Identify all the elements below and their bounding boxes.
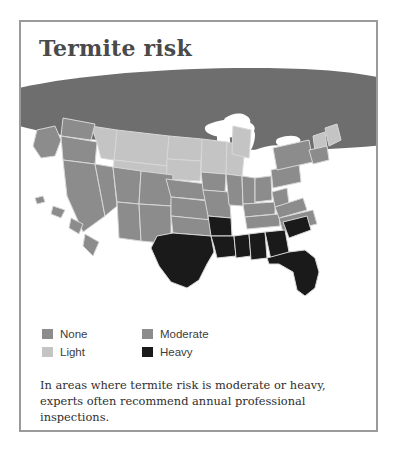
state-north-dakota [167, 136, 202, 161]
state-alaska-inset [33, 126, 61, 158]
page-title: Termite risk [39, 35, 192, 61]
state-michigan [232, 126, 251, 158]
legend-label-light: Light [60, 346, 85, 358]
legend-label-heavy: Heavy [160, 346, 193, 358]
legend-label-moderate: Moderate [160, 328, 209, 340]
state-mississippi [234, 234, 251, 258]
state-missouri [203, 190, 231, 218]
state-indiana [242, 176, 255, 204]
legend-row: None Moderate [42, 325, 262, 343]
legend-swatch-moderate [142, 329, 153, 339]
state-arkansas [208, 216, 232, 236]
map-container [21, 66, 376, 334]
state-ohio [255, 176, 272, 202]
state-hawaii-inset-2 [51, 206, 65, 218]
state-hawaii-inset-4 [83, 234, 99, 256]
us-termite-risk-map-svg [21, 66, 376, 334]
legend-item-light[interactable]: Light [42, 346, 142, 358]
state-louisiana [211, 236, 236, 258]
legend-swatch-none [42, 329, 53, 339]
state-hawaii-inset [35, 196, 45, 204]
state-oregon [61, 136, 97, 164]
state-minnesota [201, 139, 227, 174]
state-colorado [139, 171, 173, 206]
legend-swatch-light [42, 347, 53, 357]
legend-item-heavy[interactable]: Heavy [142, 346, 242, 358]
legend: None Moderate Light Heavy [42, 325, 262, 361]
caption-text: In areas where termite risk is moderate … [40, 377, 358, 425]
legend-item-moderate[interactable]: Moderate [142, 328, 242, 340]
legend-label-none: None [60, 328, 88, 340]
legend-item-none[interactable]: None [42, 328, 142, 340]
state-utah [113, 167, 141, 204]
state-texas [151, 233, 214, 288]
state-tennessee [245, 214, 280, 229]
termite-risk-card: Termite risk [19, 20, 378, 432]
legend-swatch-heavy [142, 347, 153, 357]
state-illinois [226, 174, 243, 206]
state-arizona [117, 202, 141, 241]
state-alabama [249, 232, 267, 260]
legend-row: Light Heavy [42, 343, 262, 361]
state-florida [267, 250, 319, 296]
state-iowa [201, 172, 226, 192]
